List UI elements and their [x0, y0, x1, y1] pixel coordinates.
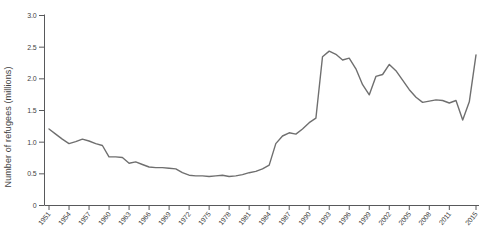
x-tick-label: 2015 — [464, 210, 479, 226]
y-tick-label: 2.5 — [27, 44, 36, 51]
chart-canvas: Number of refugees (millions) 00.51.01.5… — [0, 0, 486, 241]
y-tick-label: 1.0 — [27, 139, 36, 146]
x-tick-label: 1999 — [357, 210, 372, 226]
x-tick-label: 1984 — [257, 210, 272, 226]
x-tick-label: 1954 — [57, 210, 72, 226]
y-tick-label: 0.5 — [27, 170, 36, 177]
x-tick-label: 1960 — [97, 210, 112, 226]
y-axis-label: Number of refugees (millions) — [3, 67, 13, 188]
x-tick-label: 1978 — [217, 210, 232, 226]
axes — [45, 15, 480, 206]
x-tick-label: 1993 — [317, 210, 332, 226]
x-tick-label: 2008 — [417, 210, 432, 226]
x-tick-label: 1951 — [37, 210, 52, 226]
x-tick-label: 1990 — [297, 210, 312, 226]
refugees-data-line — [49, 51, 476, 176]
y-tick-label: 3.0 — [27, 12, 36, 19]
x-tick-label: 2005 — [397, 210, 412, 226]
y-tick-label: 0 — [33, 202, 37, 209]
x-tick-label: 1957 — [77, 210, 92, 226]
x-tick-label: 1975 — [197, 210, 212, 226]
x-tick-label: 1981 — [237, 210, 252, 226]
x-tick-label: 1972 — [177, 210, 192, 226]
refugee-line-chart-figure: Number of refugees (millions) 00.51.01.5… — [0, 0, 486, 241]
y-tick-label: 2.0 — [27, 75, 36, 82]
x-tick-label: 1996 — [337, 210, 352, 226]
x-tick-label: 1963 — [117, 210, 132, 226]
x-tick-label: 1966 — [137, 210, 152, 226]
x-tick-label: 1987 — [277, 210, 292, 226]
y-tick-label: 1.5 — [27, 107, 36, 114]
x-tick-label: 1969 — [157, 210, 172, 226]
x-tick-label: 2002 — [377, 210, 392, 226]
x-tick-label: 2011 — [438, 210, 453, 226]
